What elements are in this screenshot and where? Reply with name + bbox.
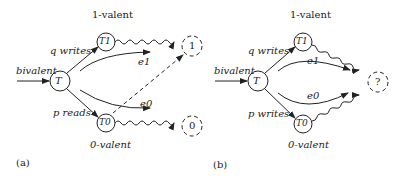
diagram-graphics bbox=[0, 0, 401, 184]
label-bivalent-a: bivalent bbox=[16, 66, 57, 76]
node-label-T0-b: T0 bbox=[296, 119, 308, 128]
label-e0-b: e0 bbox=[307, 91, 319, 101]
outcome-label-unknown-b: ? bbox=[375, 77, 380, 87]
caption-b: (b) bbox=[213, 160, 227, 170]
label-p-reads-a: p reads bbox=[53, 108, 91, 118]
label-q-writes-b: q writes bbox=[248, 46, 289, 56]
node-label-T1-b: T1 bbox=[296, 37, 308, 46]
caption-a: (a) bbox=[16, 158, 30, 168]
label-0-valent-b: 0-valent bbox=[288, 140, 329, 150]
node-label-T-b: T bbox=[253, 76, 260, 86]
wavy-T1-to-1-a bbox=[115, 40, 174, 44]
label-e1-b: e1 bbox=[307, 56, 319, 66]
outcome-label-1-a: 1 bbox=[189, 41, 195, 51]
wavy-T0-to-0-a bbox=[115, 121, 174, 125]
node-label-T0-a: T0 bbox=[99, 118, 111, 127]
label-q-writes-a: q writes bbox=[50, 46, 91, 56]
node-label-T1-a: T1 bbox=[99, 37, 111, 46]
label-1-valent-b: 1-valent bbox=[290, 10, 331, 20]
label-p-writes-b: p writes bbox=[248, 109, 289, 119]
label-1-valent-a: 1-valent bbox=[92, 10, 133, 20]
outcome-label-0-a: 0 bbox=[189, 121, 195, 131]
label-e0-a: e0 bbox=[140, 99, 152, 109]
node-label-T-a: T bbox=[55, 76, 62, 86]
diagram-root: 1-valent q writes bivalent T T1 T0 e1 e0… bbox=[0, 0, 401, 184]
label-bivalent-b: bivalent bbox=[214, 66, 255, 76]
label-0-valent-a: 0-valent bbox=[90, 140, 131, 150]
label-e1-a: e1 bbox=[138, 57, 150, 67]
